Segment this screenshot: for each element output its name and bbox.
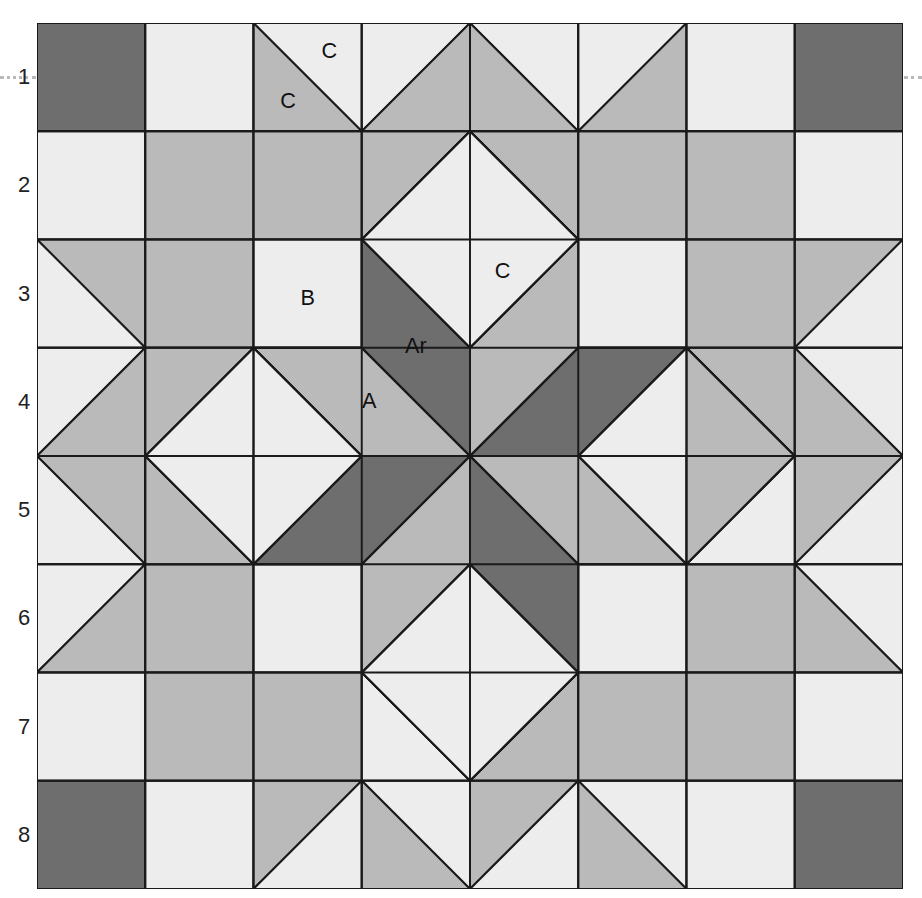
square-piece [145,564,253,672]
square-piece [145,673,253,781]
corner-square [37,781,145,889]
square-piece [254,673,362,781]
row-label-1: 1 [14,66,34,88]
row-label-8: 8 [14,824,34,846]
square-piece [145,781,253,889]
square-piece [687,131,795,239]
piece-label-c: C [495,258,511,283]
row-label-5: 5 [14,499,34,521]
square-piece [578,564,686,672]
square-piece [37,673,145,781]
square-piece [795,673,903,781]
square-piece [254,131,362,239]
square-piece [578,673,686,781]
square-piece [687,781,795,889]
corner-square [795,781,903,889]
piece-label-a: A [362,388,377,413]
square-piece [687,564,795,672]
square-piece [687,240,795,348]
row-label-2: 2 [14,174,34,196]
quilt-pieces [37,23,903,889]
corner-square [795,23,903,131]
square-piece [578,131,686,239]
piece-label-ar: Ar [405,333,427,358]
piece-label-c: C [321,38,337,63]
row-label-3: 3 [14,283,34,305]
seam-guide-right [904,76,922,79]
square-piece [145,131,253,239]
square-piece [578,240,686,348]
quilt-diagram: CCBCArA [37,23,903,889]
row-label-4: 4 [14,391,34,413]
square-piece [145,23,253,131]
corner-square [37,23,145,131]
square-piece [687,23,795,131]
row-label-6: 6 [14,607,34,629]
square-piece [37,131,145,239]
square-piece [254,564,362,672]
piece-label-c: C [280,88,296,113]
square-piece [795,131,903,239]
piece-label-b: B [300,285,314,310]
square-piece [145,240,253,348]
square-piece [687,673,795,781]
row-label-7: 7 [14,716,34,738]
